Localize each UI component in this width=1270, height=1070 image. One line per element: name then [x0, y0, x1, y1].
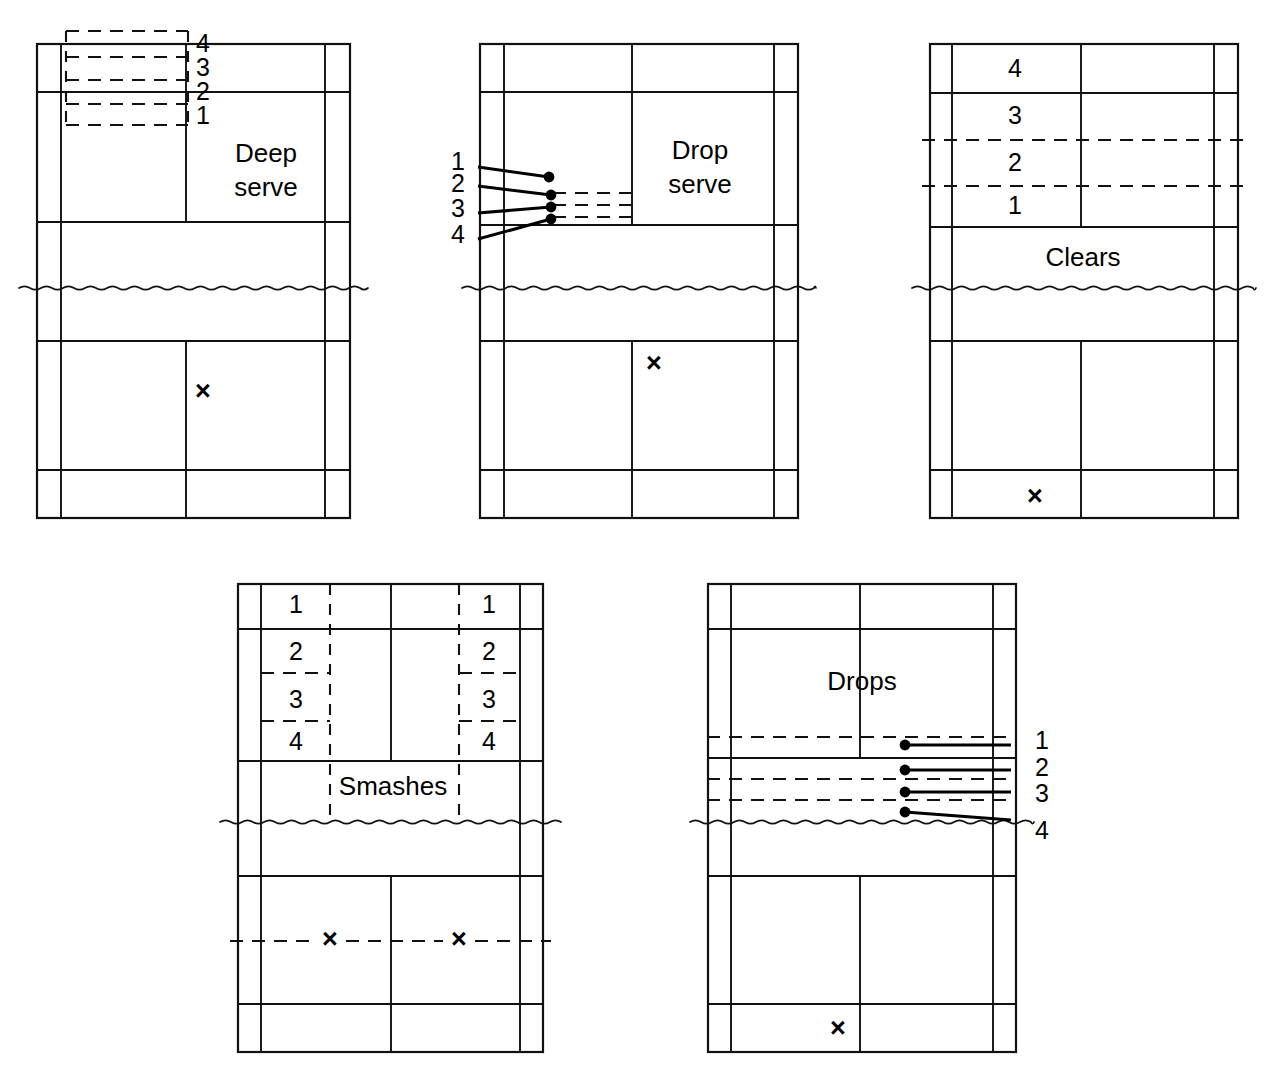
drop-serve-zone-label-4: 4: [451, 220, 465, 248]
drops-landing-dot-3: [900, 787, 911, 798]
deep-serve-zone-label-1: 1: [196, 101, 210, 129]
clears-net-wavy-line: [912, 286, 1256, 289]
drop-serve-zone-label-2: 2: [451, 169, 465, 197]
court-drop-serve: 1234Dropserve×: [451, 44, 816, 518]
clears-player-mark: ×: [1027, 481, 1043, 511]
drops-landing-dot-2: [900, 765, 911, 776]
court-drops: 1234Drops×: [690, 584, 1049, 1052]
drops-zone-label-1: 1: [1035, 726, 1049, 754]
drops-zone-label-2: 2: [1035, 753, 1049, 781]
drop-serve-landing-dot-3: [546, 202, 557, 213]
smashes-player-mark-right: ×: [451, 924, 467, 954]
court-clears: 4321Clears×: [912, 44, 1256, 518]
deep-serve-net-wavy-line: [19, 286, 368, 289]
drops-landing-dot-1: [900, 740, 911, 751]
drops-trajectory-4: [905, 812, 1011, 820]
drops-zone-label-3: 3: [1035, 779, 1049, 807]
drop-serve-landing-dot-2: [546, 190, 557, 201]
smashes-left-zone-label-4: 4: [289, 727, 303, 755]
drop-serve-trajectory-2: [478, 186, 551, 195]
clears-title-line-1: Clears: [1045, 242, 1120, 272]
deep-serve-outer-boundary: [37, 44, 350, 518]
clears-zone-label-4: 4: [1008, 54, 1022, 82]
drops-player-mark: ×: [830, 1013, 846, 1043]
deep-serve-player-mark: ×: [195, 376, 211, 406]
smashes-net-wavy-line: [220, 820, 561, 823]
smashes-title-line-1: Smashes: [339, 771, 447, 801]
smashes-left-zone-label-3: 3: [289, 685, 303, 713]
clears-zone-label-1: 1: [1008, 191, 1022, 219]
drop-serve-trajectory-3: [478, 207, 551, 213]
deep-serve-title-line-2: serve: [234, 172, 298, 202]
drops-net-wavy-line: [690, 820, 1034, 823]
drops-title-line-1: Drops: [827, 666, 896, 696]
smashes-left-zone-label-2: 2: [289, 637, 303, 665]
court-smashes: 12341234Smashes××: [220, 584, 561, 1052]
clears-zone-label-3: 3: [1008, 101, 1022, 129]
court-deep-serve: 4321Deepserve×: [19, 29, 368, 518]
drops-landing-dot-4: [900, 807, 911, 818]
drop-serve-landing-dot-4: [546, 214, 557, 225]
drops-zone-label-4: 4: [1035, 816, 1049, 844]
clears-outer-boundary: [930, 44, 1238, 518]
drop-serve-trajectory-4: [478, 219, 551, 239]
drop-serve-net-wavy-line: [462, 286, 816, 289]
badminton-diagram-figure: 4321Deepserve×1234Dropserve×4321Clears×1…: [0, 0, 1270, 1070]
drop-serve-title-line-1: Drop: [672, 135, 728, 165]
deep-serve-title-line-1: Deep: [235, 138, 297, 168]
smashes-right-zone-label-4: 4: [482, 727, 496, 755]
drop-serve-landing-dot-1: [544, 172, 555, 183]
drop-serve-trajectory-1: [478, 167, 549, 177]
smashes-right-zone-label-2: 2: [482, 637, 496, 665]
drop-serve-outer-boundary: [480, 44, 798, 518]
drop-serve-title-line-2: serve: [668, 169, 732, 199]
clears-zone-label-2: 2: [1008, 148, 1022, 176]
smashes-left-zone-label-1: 1: [289, 590, 303, 618]
drop-serve-player-mark: ×: [646, 348, 662, 378]
smashes-player-mark-left: ×: [322, 924, 338, 954]
smashes-right-zone-label-1: 1: [482, 590, 496, 618]
drop-serve-zone-label-3: 3: [451, 194, 465, 222]
smashes-right-zone-label-3: 3: [482, 685, 496, 713]
courts-canvas: 4321Deepserve×1234Dropserve×4321Clears×1…: [0, 0, 1270, 1070]
